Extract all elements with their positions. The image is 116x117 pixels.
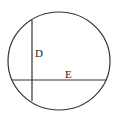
circle-chord-diagram: D E [0,0,116,117]
diagram-canvas: D E [0,0,116,117]
label-d: D [35,47,43,59]
circle-outline [8,12,110,110]
label-e: E [65,68,72,80]
